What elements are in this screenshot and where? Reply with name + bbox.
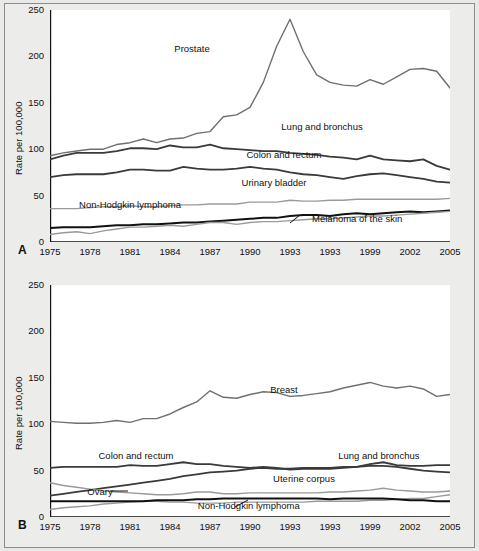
series-label: Ovary xyxy=(87,486,112,497)
x-tick-label: 1990 xyxy=(239,521,260,532)
x-tick-label: 1987 xyxy=(199,246,220,257)
x-tick-label: 1990 xyxy=(239,246,260,257)
x-tick-label: 1993 xyxy=(279,521,300,532)
panel-a-y-ticks: 050100150200250 xyxy=(14,0,44,232)
x-tick-label: 1981 xyxy=(119,521,140,532)
panel-b-plot-area xyxy=(50,285,450,517)
series-label: Uterine corpus xyxy=(273,473,335,484)
y-tick-label: 250 xyxy=(14,4,44,15)
panel-a-letter: A xyxy=(18,243,27,257)
x-tick-label: 1975 xyxy=(39,246,60,257)
panel-b-letter: B xyxy=(18,518,27,532)
x-tick-label: 1978 xyxy=(79,521,100,532)
x-tick-label: 1993 xyxy=(279,246,300,257)
series-label: Breast xyxy=(270,384,297,395)
y-tick-label: 100 xyxy=(14,418,44,429)
series-label: Non-Hodgkin lymphoma xyxy=(79,199,181,210)
x-tick-label: 1984 xyxy=(159,521,180,532)
y-tick-label: 150 xyxy=(14,372,44,383)
series-line xyxy=(50,19,450,155)
panel-b-series-canvas xyxy=(50,285,450,517)
panel-b-y-ticks: 050100150200250 xyxy=(14,275,44,507)
x-tick-label: 2005 xyxy=(439,246,460,257)
series-label: Lung and bronchus xyxy=(281,120,362,131)
x-tick-label: 1975 xyxy=(39,521,60,532)
series-label: Prostate xyxy=(174,43,209,54)
y-tick-label: 250 xyxy=(14,279,44,290)
x-tick-label: 1981 xyxy=(119,246,140,257)
series-label: Non-Hodgkin lymphoma xyxy=(198,499,300,510)
panel-b-x-ticks: 1975197819811984198719901993199319992002… xyxy=(0,521,479,537)
panel-b: Rate per 100,000 050100150200250 1975197… xyxy=(0,275,479,551)
panel-a: Rate per 100,000 050100150200250 1975197… xyxy=(0,0,479,276)
x-tick-label: 1993 xyxy=(319,246,340,257)
x-tick-label: 1993 xyxy=(319,521,340,532)
x-tick-label: 1987 xyxy=(199,521,220,532)
y-tick-label: 50 xyxy=(14,465,44,476)
x-tick-label: 2002 xyxy=(399,521,420,532)
panel-a-x-ticks: 1975197819811984198719901993199319992002… xyxy=(0,246,479,262)
x-tick-label: 1984 xyxy=(159,246,180,257)
x-tick-label: 1999 xyxy=(359,521,380,532)
x-tick-label: 2005 xyxy=(439,521,460,532)
y-tick-label: 50 xyxy=(14,190,44,201)
axis-lines xyxy=(51,285,451,517)
series-label: Lung and bronchus xyxy=(338,450,419,461)
y-tick-label: 100 xyxy=(14,143,44,154)
y-tick-label: 200 xyxy=(14,325,44,336)
y-tick-label: 150 xyxy=(14,97,44,108)
series-label: Urinary bladder xyxy=(242,176,307,187)
series-label: Colon and rectum xyxy=(247,148,322,159)
x-tick-label: 2002 xyxy=(399,246,420,257)
x-tick-label: 1978 xyxy=(79,246,100,257)
series-label: Colon and rectum xyxy=(99,450,174,461)
series-label: Melanoma of the skin xyxy=(312,213,402,224)
figure-root: Rate per 100,000 050100150200250 1975197… xyxy=(0,0,479,551)
x-tick-label: 1999 xyxy=(359,246,380,257)
series-line xyxy=(50,382,450,423)
y-tick-label: 200 xyxy=(14,50,44,61)
